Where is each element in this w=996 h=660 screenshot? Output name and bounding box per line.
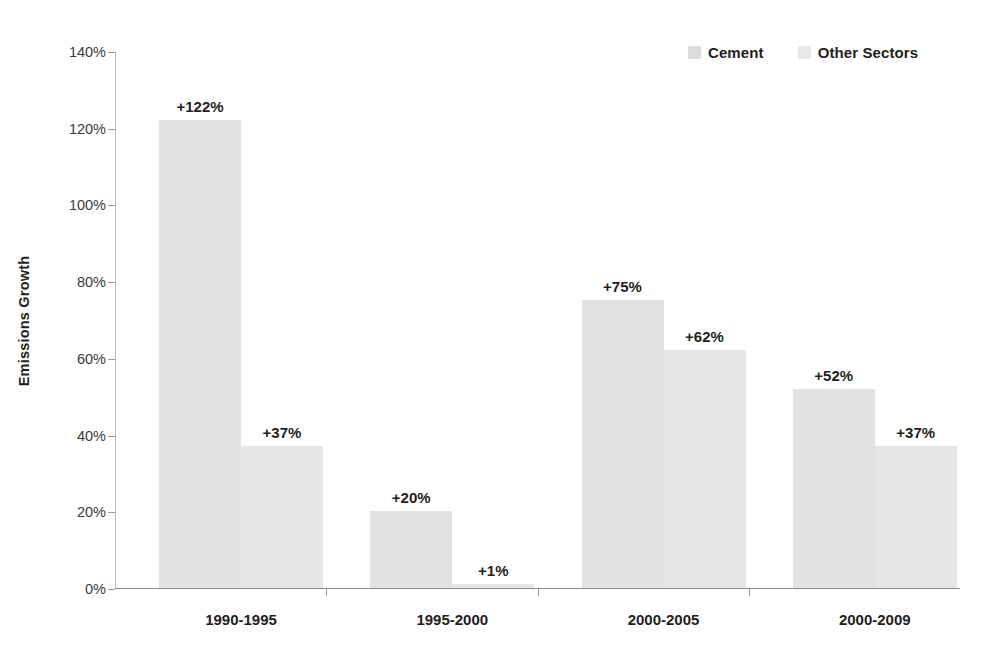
bar-value-label: +37% xyxy=(896,424,935,441)
y-tick-mark xyxy=(108,359,115,360)
x-tick-mark xyxy=(538,589,539,596)
y-tick-label: 40% xyxy=(77,428,106,444)
category-label-2000-2009: 2000-2009 xyxy=(839,611,911,628)
y-tick-mark xyxy=(108,205,115,206)
bar-other-sectors-1995-2000: +1% xyxy=(452,584,534,588)
y-tick-mark xyxy=(108,436,115,437)
x-tick-mark xyxy=(749,589,750,596)
bar-cement-2000-2005: +75% xyxy=(582,300,664,588)
x-tick-mark xyxy=(326,589,327,596)
y-tick-mark xyxy=(108,52,115,53)
y-tick-label: 20% xyxy=(77,504,106,520)
y-tick-label: 140% xyxy=(69,44,106,60)
bar-cement-1995-2000: +20% xyxy=(370,511,452,588)
y-tick-mark xyxy=(108,589,115,590)
category-label-1995-2000: 1995-2000 xyxy=(416,611,488,628)
bar-value-label: +62% xyxy=(685,328,724,345)
y-axis-line xyxy=(115,52,116,589)
bar-value-label: +37% xyxy=(263,424,302,441)
y-tick-mark xyxy=(108,129,115,130)
y-axis-title: Emissions Growth xyxy=(10,0,38,641)
bar-other-sectors-2000-2009: +37% xyxy=(875,446,957,588)
category-label-2000-2005: 2000-2005 xyxy=(628,611,700,628)
bar-value-label: +52% xyxy=(814,367,853,384)
bar-value-label: +122% xyxy=(176,98,223,115)
y-tick-mark xyxy=(108,282,115,283)
bar-cement-2000-2009: +52% xyxy=(793,389,875,588)
bar-chart: Cement Other Sectors Emissions Growth 0%… xyxy=(0,0,996,660)
bar-value-label: +1% xyxy=(478,562,508,579)
y-tick-label: 60% xyxy=(77,351,106,367)
y-tick-label: 80% xyxy=(77,274,106,290)
y-tick-label: 100% xyxy=(69,197,106,213)
bar-other-sectors-2000-2005: +62% xyxy=(664,350,746,588)
bar-other-sectors-1990-1995: +37% xyxy=(241,446,323,588)
y-tick-label: 0% xyxy=(85,581,106,597)
bar-value-label: +75% xyxy=(603,278,642,295)
category-label-1990-1995: 1990-1995 xyxy=(205,611,277,628)
y-tick-label: 120% xyxy=(69,121,106,137)
y-axis-title-text: Emissions Growth xyxy=(16,255,32,386)
plot-area: 0%20%40%60%80%100%120%140% +122%+37%+20%… xyxy=(115,52,960,589)
bar-value-label: +20% xyxy=(392,489,431,506)
y-tick-mark xyxy=(108,512,115,513)
bar-cement-1990-1995: +122% xyxy=(159,120,241,588)
